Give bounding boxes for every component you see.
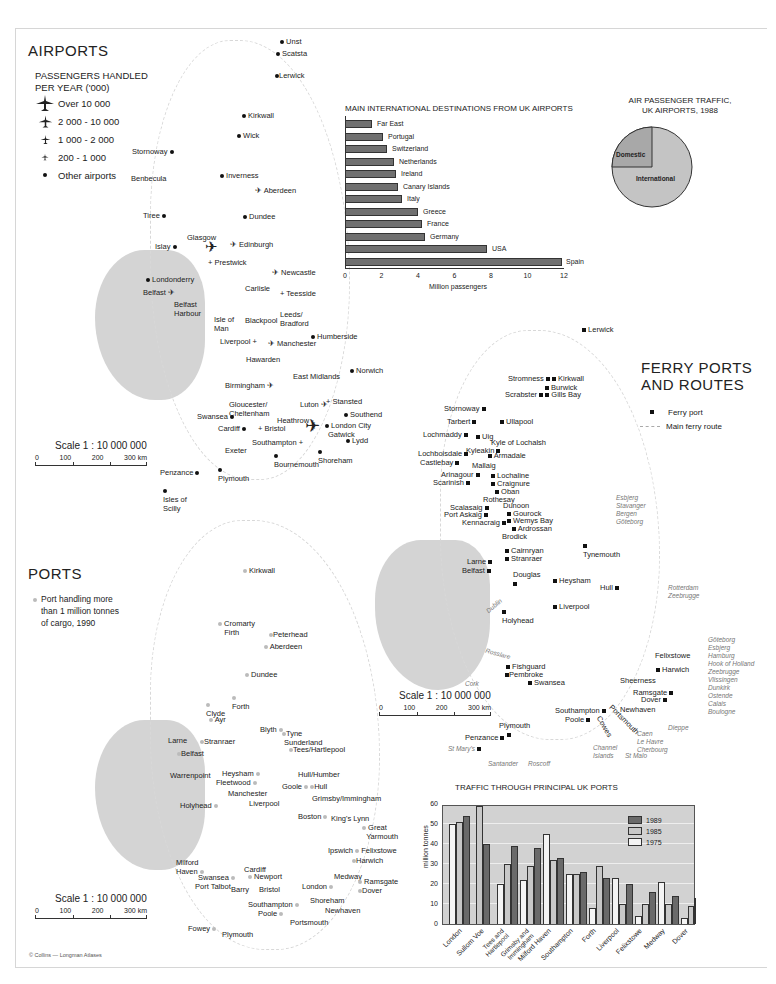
airport-label: Scatsta [276,49,307,58]
bar-tees-1975 [497,884,504,924]
ferry-port-label: Heysham [553,576,591,585]
port-label: Manchester [228,789,267,798]
ferry-port-label: Felixstowe [655,651,690,660]
ferry-title: FERRY PORTSAND ROUTES [641,359,752,393]
airport-label: Southend [344,410,382,419]
bar-felixstowe-1989 [649,892,656,924]
ferry-destination-label: EsbjergStavangerBergenGöteborg [616,494,646,526]
ferry-port-label: Penzance [465,733,504,742]
bar-grimsby-1989 [534,848,541,924]
airport-label: Hawarden [246,355,280,364]
port-label: Poole [258,909,283,918]
bar-dover-1989 [694,898,696,924]
copyright: © Collins — Longman Atlases [29,952,102,958]
port-label: Stranraer [200,737,235,746]
ferry-port-label: Tarbert [447,417,476,426]
port-label: Peterhead [269,630,308,639]
y-axis [345,116,346,269]
pie-label-domestic: Domestic [616,151,645,158]
airport-label: Dundee [243,212,275,221]
bar-spain [345,258,562,266]
port-label: Plymouth [222,930,253,939]
ferry-port-label: Sheerness [620,676,656,685]
port-label: Swansea [198,873,235,882]
ferry-port-label: Stranraer [505,554,542,563]
airport-label: Benbecula [131,174,166,183]
airport-label: Bournemouth [274,451,319,469]
bar-greece [345,208,418,216]
airport-label: + Bristol [258,424,285,433]
airport-label: Shoreham [318,447,353,465]
airport-label: + Prestwick [208,258,247,267]
airport-label: Blackpool [245,316,278,325]
bar-london-1989 [463,816,470,924]
ferry-port-label: Belfast [462,566,491,575]
ferry-destination-label: GöteborgEsbjergHamburgHook of HollandZee… [708,636,754,716]
airport-label: Belfast Harbour [174,300,214,318]
airport-label: + Teesside [280,289,316,298]
ferry-destination-label: Roscoff [528,760,550,768]
bar-tees-1989 [511,846,518,924]
bar-milford-1985 [550,860,557,924]
airport-label: Birmingham ✈ [225,381,274,390]
plane-large-icon: ✈ [205,238,218,256]
legend-row: 200 - 1 000 [32,148,119,166]
x-axis [345,268,564,269]
airports-legend: Over 10 000 2 000 - 10 000 1 000 - 2 000… [32,94,119,184]
ferry-port-label: Stornoway [444,404,486,413]
bar-canary-islands [345,183,398,191]
port-label: Belfast [177,749,204,758]
x-axis-label: Million passengers [429,283,487,290]
airport-label: Isle of Man [214,315,244,333]
airport-label: Isles of Scilly [163,486,193,513]
port-label: Forth [232,693,250,711]
airport-label: East Midlands [293,372,340,381]
port-label: Port Talbot [195,882,231,891]
port-label: Cromarty Firth [218,619,255,637]
ferry-destination-label: Cork [465,680,479,688]
airport-label: Humberside [311,332,358,341]
port-label: Dundee [245,670,277,679]
port-label: Aberdeen [264,642,302,651]
port-label: Tees/Hartlepool [289,745,345,754]
traffic-chart: 1989 1985 1975 [442,805,695,925]
ferry-port-icon [650,410,654,414]
airport-label: Wick [237,131,259,140]
ferry-port-label: Brodick [502,532,527,541]
bar-liverpool-1985 [619,904,626,924]
port-label: Ayr [209,715,226,724]
bar-italy [345,195,402,203]
bar-far-east [345,120,372,128]
port-label: Heysham [222,769,260,778]
airport-label: ✈ Manchester [268,339,316,348]
airport-label: Inverness [220,171,259,180]
airport-label: Carlisle [245,284,270,293]
airport-label: + Stansted [326,397,362,406]
bar-milford-1975 [543,834,550,924]
bar-southampton-1989 [580,872,587,924]
bar-medway-1975 [658,882,665,924]
airport-label: Plymouth [218,465,249,483]
port-label: Southampton [248,900,299,909]
port-label: Ipswich Felixstowe [328,846,397,855]
port-label: Portsmouth [290,918,328,927]
ferry-port-label: Lochboisdale [418,449,468,458]
port-label: Larne [168,736,187,745]
airports-scale-bar: Scale 1 : 10 000 000 0100200300 km [35,440,147,466]
ferry-port-label: Stromness Kirkwall [508,374,584,383]
legend-1975: 1975 [628,838,662,846]
plane-large-icon [32,94,58,112]
port-label: Goole Hull [282,782,327,791]
ferry-port-label: Newhaven [620,705,655,714]
legend-row: 2 000 - 10 000 [32,112,119,130]
bar-forth-1985 [596,866,603,924]
ferry-port-label: Dover [641,695,667,704]
airport-label: Tiree [143,211,166,220]
ferry-port-label: Armadale [488,451,526,460]
port-label: Grimsby/Immingham [312,794,381,803]
ferry-port-label: Ullapool [500,417,533,426]
legend-row: 1 000 - 2 000 [32,130,119,148]
bar-felixstowe-1975 [635,916,642,924]
bar-london-1985 [456,822,463,924]
airport-label: Swansea [197,412,234,421]
